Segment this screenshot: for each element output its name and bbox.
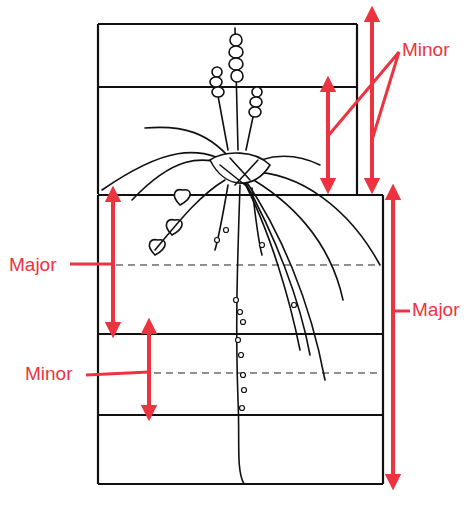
label-major-left: Major — [9, 255, 57, 274]
dashed-guides — [116, 265, 383, 373]
label-major-right: Major — [412, 300, 460, 319]
minor-leader — [328, 52, 399, 140]
label-minor-top: Minor — [402, 40, 450, 59]
proportion-diagram — [0, 0, 474, 505]
annotation-arrows — [70, 14, 410, 482]
diagram-canvas: Minor Major Minor Major — [0, 0, 474, 505]
minor-leader-left — [86, 372, 149, 375]
label-minor-left: Minor — [25, 364, 73, 383]
